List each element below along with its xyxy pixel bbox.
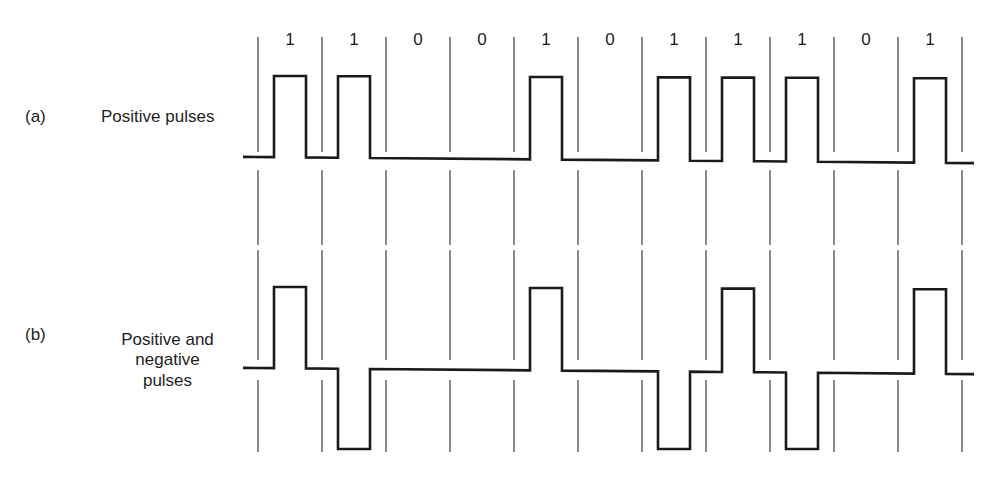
panel-b-title-line-2: negative [105,350,230,370]
bit-label: 0 [861,30,870,49]
bit-label: 1 [349,30,358,49]
bit-label: 0 [477,30,486,49]
bit-label: 0 [605,30,614,49]
panel-b-title-line-3: pulses [105,371,230,391]
bit-boundary-gridlines [258,37,962,452]
waveform-bipolar-pulses [243,287,974,449]
bit-label: 1 [797,30,806,49]
panel-b-title-line-1: Positive and [105,330,230,350]
panel-a-title: Positive pulses [101,107,214,127]
bit-label: 1 [285,30,294,49]
panel-b-tag: (b) [25,325,46,345]
bit-labels: 11001011101 [285,30,934,49]
bit-label: 1 [925,30,934,49]
bit-label: 1 [733,30,742,49]
bit-label: 0 [413,30,422,49]
panel-a-tag: (a) [25,107,46,127]
waveform-positive-pulses [243,76,974,163]
panel-b-title: Positive and negative pulses [105,330,230,391]
bit-label: 1 [541,30,550,49]
bit-label: 1 [669,30,678,49]
pulse-diagram: 11001011101 [0,0,992,479]
